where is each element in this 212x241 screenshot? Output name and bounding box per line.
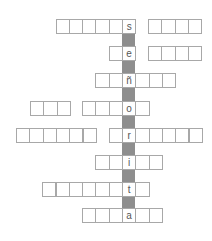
answer-cell[interactable] <box>56 19 70 34</box>
answer-cell[interactable] <box>149 208 163 223</box>
answer-cell[interactable] <box>56 128 70 143</box>
answer-cell[interactable] <box>29 128 43 143</box>
answer-cell[interactable] <box>95 101 109 116</box>
key-letter-cell: i <box>122 155 136 170</box>
answer-cell[interactable] <box>69 182 83 197</box>
answer-cell[interactable] <box>109 46 123 61</box>
answer-cell[interactable] <box>175 19 189 34</box>
answer-cell[interactable] <box>82 101 96 116</box>
answer-cell[interactable] <box>109 101 123 116</box>
answer-cell[interactable] <box>69 19 83 34</box>
answer-cell[interactable] <box>135 155 149 170</box>
answer-cell[interactable] <box>135 73 149 88</box>
answer-cell[interactable] <box>175 128 189 143</box>
answer-cell[interactable] <box>83 128 97 143</box>
key-column-connector <box>122 196 135 208</box>
answer-cell[interactable] <box>175 46 189 61</box>
key-letter-cell: t <box>122 182 136 197</box>
answer-cell[interactable] <box>161 19 175 34</box>
answer-cell[interactable] <box>135 182 149 197</box>
answer-cell[interactable] <box>109 155 123 170</box>
key-column-connector <box>122 169 135 182</box>
answer-cell[interactable] <box>135 128 149 143</box>
answer-cell[interactable] <box>188 46 202 61</box>
answer-cell[interactable] <box>189 128 203 143</box>
answer-cell[interactable] <box>95 19 109 34</box>
answer-cell[interactable] <box>162 73 176 88</box>
answer-cell[interactable] <box>95 73 109 88</box>
answer-cell[interactable] <box>56 182 70 197</box>
answer-cell[interactable] <box>109 73 123 88</box>
answer-cell[interactable] <box>95 155 109 170</box>
answer-cell[interactable] <box>149 155 163 170</box>
answer-cell[interactable] <box>109 208 123 223</box>
answer-cell[interactable] <box>149 128 163 143</box>
answer-cell[interactable] <box>148 46 162 61</box>
answer-cell[interactable] <box>188 19 202 34</box>
key-column-connector <box>122 33 135 46</box>
answer-cell[interactable] <box>135 101 149 116</box>
key-letter-cell: s <box>122 19 136 34</box>
answer-cell[interactable] <box>162 128 176 143</box>
key-letter-cell: o <box>122 101 136 116</box>
key-letter-cell: ñ <box>122 73 136 88</box>
answer-cell[interactable] <box>109 19 123 34</box>
answer-cell[interactable] <box>42 182 56 197</box>
answer-cell[interactable] <box>109 182 123 197</box>
key-column-connector <box>122 142 135 155</box>
answer-cell[interactable] <box>95 208 109 223</box>
key-column-connector <box>122 87 135 101</box>
key-column-connector <box>122 60 135 73</box>
answer-cell[interactable] <box>16 128 30 143</box>
answer-cell[interactable] <box>82 208 96 223</box>
answer-cell[interactable] <box>148 19 162 34</box>
answer-cell[interactable] <box>82 19 96 34</box>
answer-cell[interactable] <box>149 73 163 88</box>
answer-cell[interactable] <box>43 128 57 143</box>
answer-cell[interactable] <box>69 128 83 143</box>
answer-cell[interactable] <box>57 101 71 116</box>
key-letter-cell: e <box>122 46 136 61</box>
key-letter-cell: r <box>122 128 136 143</box>
answer-cell[interactable] <box>30 101 44 116</box>
answer-cell[interactable] <box>43 101 57 116</box>
key-column-connector <box>122 115 135 128</box>
answer-cell[interactable] <box>109 128 123 143</box>
answer-cell[interactable] <box>95 182 109 197</box>
answer-cell[interactable] <box>82 182 96 197</box>
key-letter-cell: a <box>122 208 136 223</box>
answer-cell[interactable] <box>135 208 149 223</box>
crossword-puzzle: señorita <box>0 0 212 241</box>
answer-cell[interactable] <box>161 46 175 61</box>
